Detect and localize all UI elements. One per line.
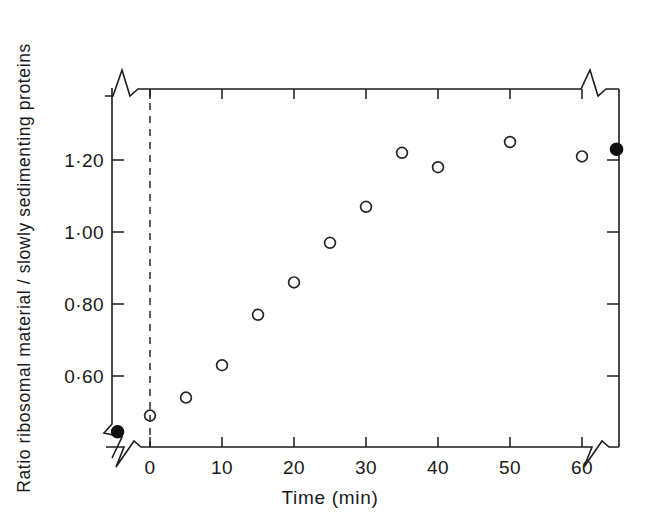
data-point-filled [610,143,622,155]
top-axis-rail [105,70,619,96]
x-tick-label-50: 50 [499,457,521,478]
y-tick-label-1-20: 1·20 [64,150,104,171]
y-axis-tick-labels: 1·20 1·00 0·80 0·60 [64,150,104,387]
x-tick-label-10: 10 [211,457,233,478]
x-axis-title: Time (min) [281,487,378,508]
x-tick-label-0: 0 [145,457,156,478]
data-point-open [433,162,444,173]
data-point-open [289,277,300,288]
y-axis-title: Ratio ribosomal material / slowly sedime… [14,43,34,493]
data-points-open-circles [145,137,588,421]
x-tick-label-60: 60 [571,457,593,478]
data-point-open [577,151,588,162]
data-point-open [325,237,336,248]
figure-container: Ratio ribosomal material / slowly sedime… [0,0,655,517]
data-point-open [181,392,192,403]
x-axis-ticks-bottom [150,437,582,447]
data-point-open [217,360,228,371]
y-tick-label-1-00: 1·00 [64,222,104,243]
data-point-open [397,147,408,158]
data-point-open [361,201,372,212]
x-tick-label-30: 30 [355,457,377,478]
y-tick-label-0-60: 0·60 [64,366,104,387]
data-point-filled [111,426,123,438]
x-axis-ticks-top [150,89,582,99]
y-axis-ticks-right [607,160,619,376]
y-axis-ticks-left [112,160,124,376]
data-point-open [505,137,516,148]
scatter-plot: Ratio ribosomal material / slowly sedime… [0,0,655,517]
x-tick-label-40: 40 [427,457,449,478]
data-points-filled-circles [111,143,622,438]
left-axis-rail [104,88,122,458]
x-tick-label-20: 20 [283,457,305,478]
data-point-open [253,309,264,320]
y-tick-label-0-80: 0·80 [64,294,104,315]
x-axis-tick-labels: 0 10 20 30 40 50 60 [145,457,593,478]
